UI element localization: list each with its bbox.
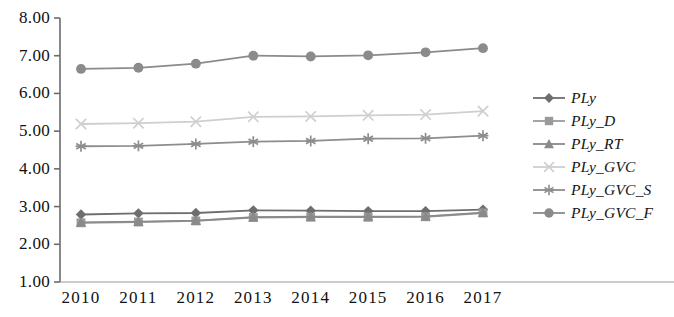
y-axis-tick-label: 5.00 bbox=[2, 121, 50, 141]
data-point-circle bbox=[76, 64, 86, 74]
x-axis-tick-label: 2016 bbox=[399, 288, 453, 308]
legend-marker-diamond-icon bbox=[532, 89, 566, 107]
legend-label: PLy bbox=[566, 89, 596, 107]
data-point-diamond bbox=[544, 93, 554, 103]
data-point-circle bbox=[191, 59, 201, 69]
data-point-asterisk bbox=[76, 141, 87, 152]
x-axis-tick-label: 2010 bbox=[54, 288, 108, 308]
legend-item-PLy_RT[interactable]: PLy_RT bbox=[532, 132, 674, 155]
legend-marker-circle-icon bbox=[532, 204, 566, 222]
data-point-circle bbox=[478, 43, 488, 53]
data-point-circle bbox=[306, 52, 316, 62]
legend-label: PLy_GVC bbox=[566, 158, 636, 176]
data-point-asterisk bbox=[544, 184, 554, 194]
data-point-circle bbox=[544, 208, 553, 217]
data-point-circle bbox=[363, 50, 373, 60]
series-group bbox=[76, 43, 489, 227]
y-axis-tick-label: 7.00 bbox=[2, 46, 50, 66]
x-axis-tick-label: 2013 bbox=[226, 288, 280, 308]
x-axis-tick-label: 2012 bbox=[169, 288, 223, 308]
line-chart: 8.007.006.005.004.003.002.001.00 2010201… bbox=[0, 0, 674, 317]
data-point-asterisk bbox=[133, 140, 144, 151]
y-axis-tick-label: 3.00 bbox=[2, 197, 50, 217]
data-point-asterisk bbox=[190, 139, 201, 150]
legend-item-PLy_GVC[interactable]: PLy_GVC bbox=[532, 155, 674, 178]
data-point-asterisk bbox=[248, 136, 259, 147]
data-point-asterisk bbox=[478, 130, 489, 141]
y-axis-tick-label: 8.00 bbox=[2, 8, 50, 28]
data-point-circle bbox=[133, 63, 143, 73]
series-PLy_GVC_F bbox=[76, 43, 488, 74]
y-axis-tick-label: 6.00 bbox=[2, 83, 50, 103]
legend-marker-square-icon bbox=[532, 112, 566, 130]
data-point-circle bbox=[421, 47, 431, 57]
x-axis-tick-label: 2015 bbox=[341, 288, 395, 308]
legend-marker-x-icon bbox=[532, 158, 566, 176]
x-axis-tick-label: 2017 bbox=[456, 288, 510, 308]
legend-item-PLy_GVC_F[interactable]: PLy_GVC_F bbox=[532, 201, 674, 224]
legend-label: PLy_D bbox=[566, 112, 615, 130]
legend-marker-asterisk-icon bbox=[532, 181, 566, 199]
y-axis-tick-label: 4.00 bbox=[2, 159, 50, 179]
x-axis-tick-label: 2014 bbox=[284, 288, 338, 308]
legend-label: PLy_GVC_F bbox=[566, 204, 653, 222]
legend-label: PLy_GVC_S bbox=[566, 181, 652, 199]
legend-label: PLy_RT bbox=[566, 135, 623, 153]
chart-legend: PLyPLy_DPLy_RTPLy_GVCPLy_GVC_SPLy_GVC_F bbox=[532, 86, 674, 224]
series-PLy_GVC bbox=[76, 106, 488, 129]
data-point-asterisk bbox=[305, 135, 316, 146]
legend-item-PLy[interactable]: PLy bbox=[532, 86, 674, 109]
series-PLy_GVC_S bbox=[76, 130, 489, 151]
data-point-square bbox=[545, 116, 553, 124]
legend-marker-triangle-icon bbox=[532, 135, 566, 153]
y-axis-tick-label: 2.00 bbox=[2, 234, 50, 254]
x-axis-tick-label: 2011 bbox=[111, 288, 165, 308]
legend-item-PLy_D[interactable]: PLy_D bbox=[532, 109, 674, 132]
data-point-asterisk bbox=[420, 133, 431, 144]
data-point-asterisk bbox=[363, 133, 374, 144]
data-point-circle bbox=[248, 51, 258, 61]
legend-item-PLy_GVC_S[interactable]: PLy_GVC_S bbox=[532, 178, 674, 201]
y-axis-tick-label: 1.00 bbox=[2, 272, 50, 292]
